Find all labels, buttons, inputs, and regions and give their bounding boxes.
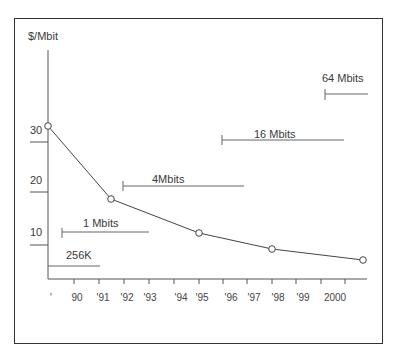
range-label-1mbits: 1 Mbits <box>83 218 118 229</box>
chart-plot <box>0 0 399 363</box>
x-ticks <box>74 279 345 284</box>
x-tick-label: '96 <box>224 293 237 303</box>
range-label-256k: 256K <box>66 250 92 261</box>
y-tick-label-20: 20 <box>30 175 42 186</box>
x-tick-label: '93 <box>143 293 156 303</box>
y-tick-label-30: 30 <box>30 125 42 136</box>
data-points <box>45 123 367 264</box>
x-tick-label: ' <box>50 293 52 303</box>
x-tick-label: '97 <box>247 293 260 303</box>
y-axis-label: $/Mbit <box>28 31 58 42</box>
range-label-4mbits: 4Mbits <box>152 174 184 185</box>
x-tick-label: 90 <box>71 293 82 303</box>
range-label-64mbits: 64 Mbits <box>322 73 364 84</box>
x-tick-label: '94 <box>174 293 187 303</box>
price-line <box>48 126 363 260</box>
x-tick-label: '91 <box>96 293 109 303</box>
x-tick-label: '99 <box>296 293 309 303</box>
x-tick-label: 2000 <box>324 293 346 303</box>
generation-ranges <box>48 89 368 266</box>
x-tick-label: '92 <box>120 293 133 303</box>
range-label-16mbits: 16 Mbits <box>254 129 296 140</box>
x-tick-label: '98 <box>271 293 284 303</box>
x-tick-label: '95 <box>195 293 208 303</box>
y-tick-label-10: 10 <box>30 227 42 238</box>
